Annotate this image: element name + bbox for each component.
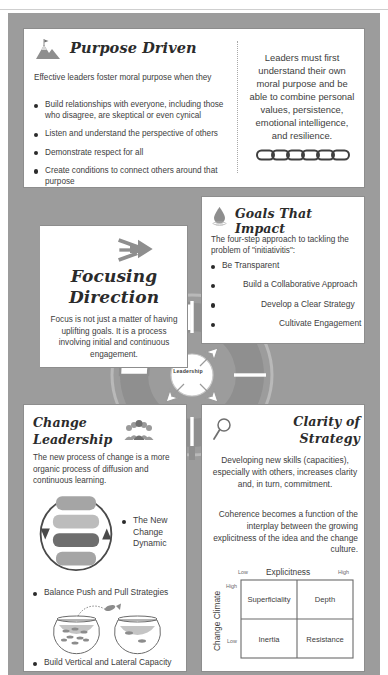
title-line: Leadership <box>33 431 118 448</box>
matrix-y-low-label: Low <box>227 638 237 644</box>
purpose-callout-text: Leaders must first understand their own … <box>248 51 356 142</box>
list-item: Demonstrate respect for all <box>34 147 229 158</box>
panel-title-change-leadership: Change Leadership <box>33 414 118 448</box>
list-item: Build Vertical and Lateral Capacity <box>33 657 185 667</box>
matrix-cell-depth: Depth <box>315 595 335 604</box>
focus-body-text: Focus is not just a matter of having upl… <box>49 314 179 360</box>
matrix-x-low-label: Low <box>238 569 248 575</box>
top-white-strip <box>0 0 388 12</box>
infographic-page: Purpose Driven Effective leaders foster … <box>0 0 388 675</box>
matrix-cell-superficiality: Superficiality <box>247 595 290 604</box>
chain-links-icon <box>255 147 351 163</box>
goals-lead-text: The four-step approach to tackling the p… <box>211 234 359 257</box>
list-item: The New Change Dynamic <box>122 515 184 550</box>
clarity-paragraph-2: Coherence becomes a function of the inte… <box>210 509 358 556</box>
top-divider-rule <box>0 9 388 10</box>
panel-title-focusing-direction: Focusing Direction <box>40 266 188 308</box>
title-line: Focusing <box>40 266 188 287</box>
change-lead-text: The new process of change is a more orga… <box>33 452 175 487</box>
title-line: Clarity of <box>242 413 360 430</box>
list-item: Balance Push and Pull Strategies <box>33 587 183 597</box>
list-item: Cultivate Engagement <box>211 318 363 329</box>
panel-focusing-direction: Focusing Direction Focus is not just a m… <box>40 225 188 368</box>
list-item: Build relationships with everyone, inclu… <box>34 99 229 121</box>
matrix-cell-resistance: Resistance <box>306 635 344 644</box>
fishbowls-jumping-fish-icon <box>46 603 168 655</box>
title-line: Change <box>33 414 118 431</box>
change-cycle-diagram <box>36 493 116 575</box>
list-item: Create conditions to connect others arou… <box>34 165 229 187</box>
mountain-flag-icon <box>34 39 62 61</box>
water-droplet-icon <box>211 206 228 226</box>
panel-title-purpose-driven: Purpose Driven <box>70 39 197 56</box>
converging-arrows-icon <box>118 234 158 264</box>
vertical-dotted-divider <box>237 41 238 173</box>
clarity-paragraph-1: Developing new skills (capacities), espe… <box>212 455 358 490</box>
matrix-x-high-label: High <box>338 569 349 575</box>
matrix-y-axis-label: Change Climate <box>212 591 222 651</box>
list-item: Build a Collaborative Approach <box>211 279 363 290</box>
title-line: Strategy <box>242 430 360 447</box>
list-item: Listen and understand the perspective of… <box>34 128 229 139</box>
list-item: Develop a Clear Strategy <box>211 299 363 310</box>
goals-bullet-list: Be Transparent Build a Collaborative App… <box>211 260 363 338</box>
purpose-bullet-list: Build relationships with everyone, inclu… <box>34 99 229 194</box>
explicitness-change-climate-matrix: Low Explicitness High Change Climate Hig… <box>210 563 360 663</box>
matrix-cell-inertia: Inertia <box>258 635 280 644</box>
panel-change-leadership: Change Leadership The new process of cha… <box>23 404 187 672</box>
group-of-people-icon <box>124 419 154 441</box>
change-bullet-2-wrap: Balance Push and Pull Strategies <box>33 587 183 604</box>
panel-title-clarity-of-strategy: Clarity of Strategy <box>242 413 360 447</box>
change-bullet-1-wrap: The New Change Dynamic <box>122 515 184 557</box>
ring-hub-label: Leadership <box>160 368 216 374</box>
panel-goals-that-impact: Goals That Impact The four-step approach… <box>201 196 365 344</box>
panel-title-goals-that-impact: Goals That Impact <box>235 206 364 236</box>
list-item: Be Transparent <box>211 260 363 271</box>
panel-purpose-driven: Purpose Driven Effective leaders foster … <box>23 28 365 188</box>
matrix-x-axis-label: Explicitness <box>266 567 310 577</box>
purpose-lead-text: Effective leaders foster moral purpose w… <box>34 72 219 84</box>
matrix-y-high-label: High <box>226 583 237 589</box>
magnifying-glass-icon <box>212 417 234 441</box>
panel-clarity-of-strategy: Clarity of Strategy Developing new skill… <box>201 404 365 672</box>
title-line: Direction <box>40 287 188 308</box>
change-bullet-3-wrap: Build Vertical and Lateral Capacity <box>33 657 185 674</box>
